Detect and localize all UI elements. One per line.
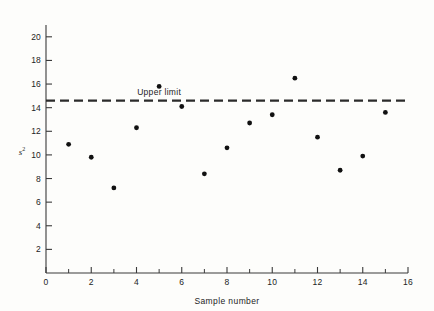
data-point — [360, 154, 365, 159]
x-tick-label: 8 — [225, 277, 230, 287]
data-point — [179, 104, 184, 109]
data-point — [315, 135, 320, 140]
tick-labels-group: 24681012141618200246810121416 — [31, 32, 413, 287]
data-point — [225, 145, 230, 150]
x-tick-label: 14 — [358, 277, 368, 287]
y-tick-label: 20 — [31, 32, 41, 42]
x-tick-label: 10 — [267, 277, 277, 287]
data-point — [134, 125, 139, 130]
y-tick-label: 16 — [31, 79, 41, 89]
x-tick-label: 0 — [44, 277, 49, 287]
x-tick-label: 4 — [134, 277, 139, 287]
data-point — [89, 155, 94, 160]
data-point — [383, 110, 388, 115]
x-tick-label: 16 — [403, 277, 413, 287]
data-point — [270, 112, 275, 117]
data-point — [66, 142, 71, 147]
data-point — [292, 76, 297, 81]
y-tick-label: 4 — [36, 221, 41, 231]
x-tick-label: 6 — [179, 277, 184, 287]
x-axis-title: Sample number — [194, 296, 259, 306]
y-tick-label: 18 — [31, 55, 41, 65]
data-point — [247, 121, 252, 126]
y-tick-label: 2 — [36, 244, 41, 254]
data-point — [338, 168, 343, 173]
data-points-group — [66, 76, 388, 191]
x-tick-label: 12 — [313, 277, 323, 287]
y-axis-title: s2 — [19, 146, 26, 157]
y-tick-label: 14 — [31, 103, 41, 113]
y-tick-label: 6 — [36, 197, 41, 207]
y-tick-label: 12 — [31, 126, 41, 136]
chart-figure: 24681012141618200246810121416 Upper limi… — [0, 0, 434, 311]
axis-titles-group: Sample numbers2 — [19, 146, 260, 306]
y-tick-label: 8 — [36, 174, 41, 184]
data-point — [202, 171, 207, 176]
ticks-group — [46, 37, 408, 273]
data-point — [157, 84, 162, 89]
data-point — [111, 186, 116, 191]
x-tick-label: 2 — [89, 277, 94, 287]
scatter-plot: 24681012141618200246810121416 Upper limi… — [0, 0, 434, 311]
upper-limit-annotation: Upper limit — [46, 87, 408, 101]
y-tick-label: 10 — [31, 150, 41, 160]
